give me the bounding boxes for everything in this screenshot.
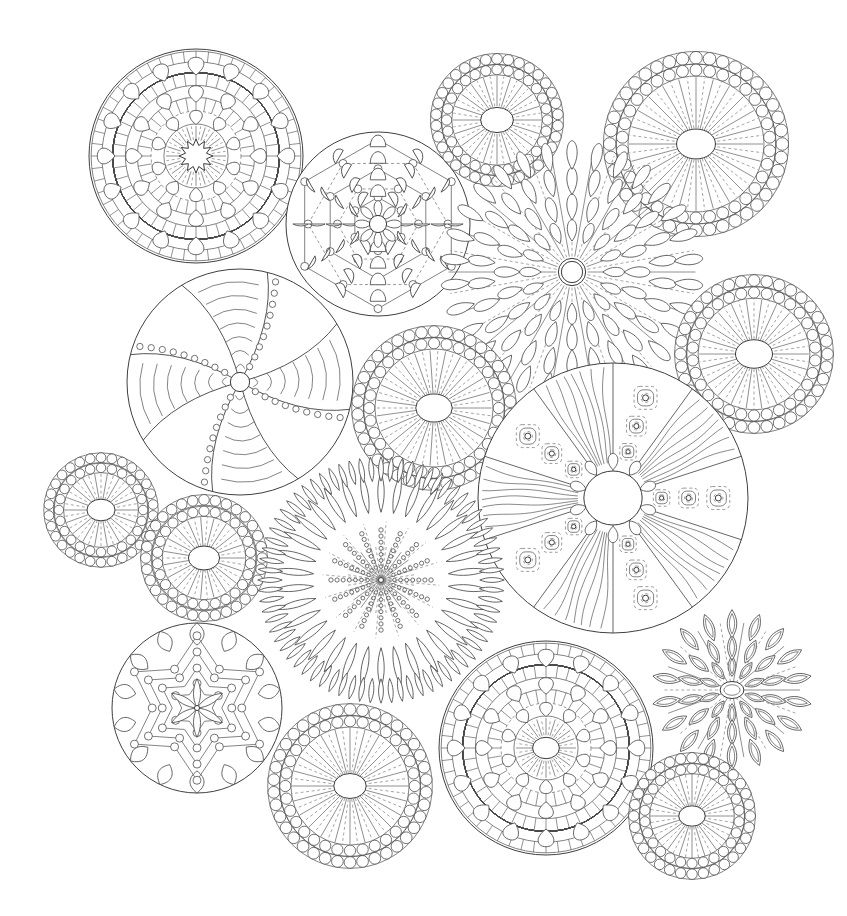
- bead: [364, 402, 375, 413]
- ray-dot: [425, 559, 429, 563]
- bead: [773, 417, 785, 429]
- bead: [603, 138, 616, 151]
- bead: [740, 83, 752, 95]
- bead: [488, 378, 499, 389]
- bead: [344, 704, 356, 716]
- band-dot: [204, 457, 210, 463]
- bead: [470, 172, 481, 183]
- bead: [541, 104, 551, 114]
- bead: [85, 546, 95, 556]
- bead: [772, 164, 785, 177]
- bead: [364, 444, 376, 456]
- bead: [638, 843, 649, 854]
- bead: [716, 220, 729, 233]
- bead: [199, 600, 209, 610]
- bead: [152, 547, 162, 557]
- bead: [616, 131, 628, 143]
- bead: [369, 708, 381, 720]
- band-dot: [267, 312, 273, 318]
- bead: [761, 158, 773, 170]
- bead: [541, 126, 551, 136]
- band-dot: [203, 468, 209, 474]
- mandala-core: [379, 578, 384, 583]
- bead: [237, 526, 247, 536]
- motif-dot: [686, 495, 691, 500]
- bead: [56, 494, 66, 504]
- bead: [357, 856, 369, 868]
- bead: [453, 343, 464, 354]
- bead: [675, 754, 686, 765]
- bead: [630, 799, 641, 810]
- bead: [687, 753, 698, 764]
- bead: [381, 713, 393, 725]
- bead: [375, 366, 386, 377]
- ornate-ring-mandala-bottom-right: [439, 641, 653, 855]
- bead: [230, 588, 240, 598]
- bead: [243, 570, 253, 580]
- coloring-page-canvas: [0, 0, 847, 916]
- bead: [550, 98, 561, 109]
- ray-dot: [414, 592, 418, 596]
- bead: [704, 65, 716, 77]
- ray-dot: [357, 600, 361, 604]
- band-dot: [264, 323, 270, 329]
- bead: [274, 749, 286, 761]
- bead: [711, 285, 723, 297]
- ray-dot: [406, 551, 410, 555]
- bead: [665, 853, 675, 863]
- bead: [701, 292, 713, 304]
- bead: [492, 64, 502, 74]
- bead: [237, 579, 247, 589]
- bead: [142, 564, 153, 575]
- bead: [804, 301, 816, 313]
- bead: [492, 360, 504, 372]
- bead: [281, 793, 292, 804]
- ray-dot: [403, 568, 407, 572]
- bead: [281, 768, 292, 779]
- bead: [96, 547, 106, 557]
- bead: [655, 775, 665, 785]
- bead: [428, 338, 439, 349]
- ray-dot: [429, 578, 433, 582]
- ray-dot: [389, 569, 393, 573]
- band-dot: [282, 402, 288, 408]
- ray-dot: [343, 542, 347, 546]
- ray-dot: [379, 534, 383, 538]
- bead: [414, 811, 426, 823]
- bead: [550, 131, 561, 142]
- ray-dot: [362, 618, 366, 622]
- bead: [465, 469, 477, 481]
- band-dot: [170, 349, 176, 355]
- bead: [332, 856, 344, 868]
- bead: [687, 858, 697, 868]
- bead: [210, 610, 221, 621]
- bead: [719, 859, 730, 870]
- vertex-dot: [148, 704, 156, 712]
- bead: [243, 536, 253, 546]
- vertex-dot: [256, 668, 264, 676]
- bead: [133, 526, 143, 536]
- band-dot: [207, 446, 213, 452]
- bead: [643, 828, 653, 838]
- bead: [698, 857, 708, 867]
- bead: [177, 594, 187, 604]
- bead: [630, 822, 641, 833]
- bead: [357, 844, 368, 855]
- ray-dot: [397, 560, 401, 564]
- bead: [231, 504, 242, 515]
- bead: [344, 716, 355, 727]
- bead: [764, 131, 776, 143]
- bead: [46, 489, 56, 499]
- mandala-core: [584, 471, 642, 525]
- bead: [453, 330, 465, 342]
- mandala-core: [369, 215, 386, 232]
- bead: [148, 500, 158, 510]
- bead: [268, 786, 280, 798]
- bead: [676, 857, 686, 867]
- bead: [719, 762, 730, 773]
- bead: [695, 379, 706, 390]
- bead: [761, 288, 772, 299]
- bead: [690, 212, 702, 224]
- bead: [764, 145, 776, 157]
- bead: [748, 422, 760, 434]
